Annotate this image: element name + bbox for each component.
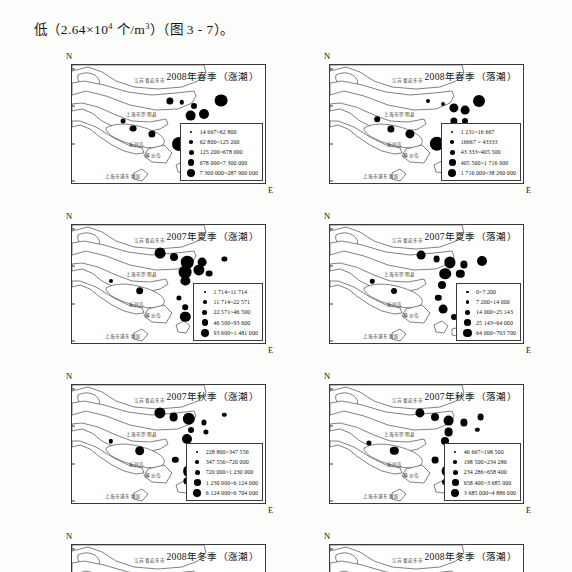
station-bubble: [135, 446, 145, 456]
east-axis-label: E: [268, 346, 273, 355]
legend-label: 658 400~3 685 000: [464, 480, 512, 486]
east-axis-label: E: [526, 186, 531, 195]
station-bubble: [417, 251, 426, 260]
y-axis-tick-mark: [72, 106, 75, 107]
y-axis-tick-mark: [72, 388, 75, 389]
legend-row: 93 600~1 481 000: [197, 328, 258, 338]
north-indicator: N: [324, 51, 330, 61]
station-bubble: [439, 305, 448, 314]
legend-symbol: [184, 131, 200, 133]
y-axis-tick-mark: [72, 341, 75, 342]
map-place-label: 江苏省启东市: [134, 557, 165, 563]
legend-symbol: [197, 300, 213, 304]
legend-row: 0~7 200: [460, 287, 516, 297]
station-bubble: [155, 248, 166, 259]
legend-label: 678 000~7 300 000: [200, 160, 248, 166]
legend-row: 16667 ~ 43333: [445, 137, 516, 147]
legend-row: 1 716 000~38 260 000: [445, 168, 516, 178]
map-panel-2007-autumn-flood: NE 江苏省启东市上海市崇明县长兴岛横沙岛上海市浦东新区2007年秋季（涨潮）2…: [30, 372, 288, 532]
map-place-label: 江苏省启东市: [134, 77, 165, 83]
map-place-label: 横沙岛: [403, 152, 419, 158]
legend-label: 7 300 000~287 900 000: [200, 170, 258, 176]
station-bubble: [438, 281, 446, 289]
map-place-label: 上海市崇明县: [384, 271, 415, 277]
legend-symbol: [448, 451, 464, 453]
legend-symbol: [197, 329, 213, 337]
east-axis-label: E: [268, 186, 273, 195]
legend-symbol: [445, 169, 461, 177]
station-bubble: [426, 99, 430, 103]
station-bubble: [109, 279, 113, 283]
north-indicator: N: [66, 51, 72, 61]
east-axis-label: E: [526, 346, 531, 355]
legend-label: 0~7 200: [476, 289, 496, 295]
legend-row: 14 000~25 143: [460, 307, 516, 317]
north-indicator: N: [324, 211, 330, 221]
map-place-label: 长兴岛: [129, 141, 145, 147]
station-bubble: [130, 125, 137, 132]
panel-legend: 1 231~16 66716667 ~ 4333343 333~405 5004…: [441, 123, 521, 181]
map-plot-area: 江苏省启东市上海市崇明县长兴岛横沙岛上海市浦东新区2008年春季（落潮）1 23…: [329, 64, 524, 184]
map-place-label: 江苏省启东市: [392, 77, 423, 83]
map-plot-area: 江苏省启东市上海市崇明县长兴岛横沙岛上海市浦东新区2007年秋季（涨潮）228 …: [71, 384, 266, 504]
legend-symbol: [460, 300, 476, 304]
station-bubble: [185, 110, 196, 121]
legend-label: 1 231~16 667: [461, 129, 495, 135]
legend-label: 6 124 000~6 704 000: [206, 490, 258, 496]
panel-title: 2008年冬季（涨潮）: [167, 549, 260, 563]
station-bubble: [432, 457, 439, 464]
station-bubble: [120, 119, 125, 124]
legend-row: 678 000~7 300 000: [184, 158, 258, 168]
legend-symbol: [184, 140, 200, 144]
panel-title: 2008年冬季（落潮）: [425, 549, 518, 563]
legend-row: 720 000~1 230 000: [190, 467, 258, 477]
legend-row: 1 230 000~6 124 000: [190, 478, 258, 488]
y-axis-tick-mark: [330, 143, 333, 144]
legend-symbol: [448, 460, 464, 464]
east-axis-label: E: [268, 506, 273, 515]
map-place-label: 长兴岛: [387, 461, 403, 467]
legend-label: 25 143~64 000: [476, 320, 513, 326]
legend-label: 62 800~125 200: [200, 139, 240, 145]
panel-title: 2007年秋季（落潮）: [425, 389, 518, 403]
map-panel-2008-winter-flood: N 江苏省启东市2008年冬季（涨潮）31.8°31.6°31.4°31.2°: [30, 532, 288, 572]
legend-row: 1 231~16 667: [445, 127, 516, 137]
legend-row: 1 714~11 714: [197, 287, 258, 297]
panel-row: NE 江苏省启东市上海市崇明县长兴岛横沙岛上海市浦东新区2008年春季（涨潮）1…: [0, 52, 572, 212]
station-bubble: [461, 106, 470, 115]
map-plot-area: 江苏省启东市上海市崇明县长兴岛横沙岛上海市浦东新区2007年夏季（落潮）0~7 …: [329, 224, 524, 344]
legend-symbol: [184, 169, 200, 177]
legend-symbol: [197, 291, 213, 293]
panel-legend: 228 800~347 556347 556~720 000720 000~1 …: [186, 443, 263, 501]
map-place-label: 横沙岛: [403, 312, 419, 318]
y-axis-tick-mark: [330, 341, 333, 342]
legend-label: 347 556~720 000: [206, 459, 249, 465]
map-place-label: 上海市崇明县: [126, 111, 157, 117]
station-bubble: [169, 412, 178, 421]
legend-symbol: [184, 150, 200, 155]
legend-label: 7 200~14 000: [476, 299, 510, 305]
map-place-label: 上海市浦东新区: [105, 333, 141, 339]
legend-symbol: [197, 319, 213, 326]
y-axis-tick-mark: [330, 463, 333, 464]
legend-row: 43 333~405 500: [445, 147, 516, 157]
legend-row: 125 200~678 000: [184, 147, 258, 157]
legend-label: 198 500~234 286: [464, 459, 507, 465]
y-axis-tick-mark: [72, 426, 75, 427]
map-place-label: 上海市浦东新区: [363, 333, 399, 339]
map-place-label: 上海市崇明县: [384, 431, 415, 437]
map-place-label: 江苏省启东市: [392, 237, 423, 243]
panel-title: 2008年春季（落潮）: [425, 69, 518, 83]
map-place-label: 横沙岛: [403, 472, 419, 478]
legend-label: 16667 ~ 43333: [461, 139, 498, 145]
legend-label: 1 230 000~6 124 000: [206, 480, 258, 486]
legend-label: 234 286~658 400: [464, 469, 507, 475]
legend-row: 46 667~198 500: [448, 447, 516, 457]
map-place-label: 长兴岛: [129, 301, 145, 307]
map-place-label: 上海市崇明县: [126, 271, 157, 277]
legend-row: 7 200~14 000: [460, 297, 516, 307]
legend-label: 93 600~1 481 000: [213, 330, 258, 336]
map-plot-area: 江苏省启东市上海市崇明县长兴岛横沙岛上海市浦东新区2008年春季（涨潮）14 6…: [71, 64, 266, 184]
legend-row: 234 286~658 400: [448, 467, 516, 477]
legend-label: 1 716 000~38 260 000: [461, 170, 516, 176]
